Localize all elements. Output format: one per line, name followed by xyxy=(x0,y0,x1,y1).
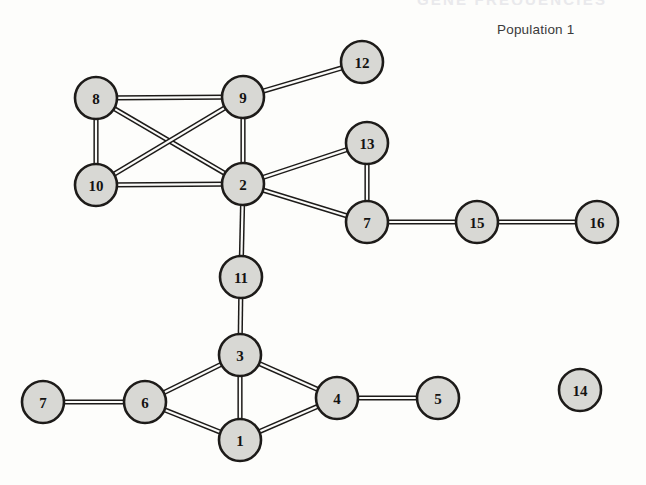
graph-node-2[interactable]: 2 xyxy=(222,163,264,205)
graph-node-7[interactable]: 7 xyxy=(22,381,64,423)
graph-edge xyxy=(260,67,344,92)
graph-edge xyxy=(114,97,225,98)
graph-node-13[interactable]: 13 xyxy=(346,122,388,164)
edge-fill xyxy=(161,363,224,394)
edge-fill xyxy=(162,409,224,434)
graph-edge xyxy=(256,362,320,390)
graph-edge xyxy=(240,295,241,337)
graph-edge xyxy=(241,202,242,259)
node-label: 7 xyxy=(39,395,47,411)
node-label: 3 xyxy=(236,348,244,364)
node-label: 11 xyxy=(234,270,248,286)
node-label: 5 xyxy=(434,391,442,407)
graph-node-6[interactable]: 6 xyxy=(124,381,166,423)
graph-node-15[interactable]: 15 xyxy=(456,201,498,243)
graph-node-5[interactable]: 5 xyxy=(417,377,459,419)
node-label: 9 xyxy=(239,90,247,106)
graph-node-14[interactable]: 14 xyxy=(559,369,601,411)
graph-edge xyxy=(260,189,350,216)
graph-edge xyxy=(260,149,350,179)
graph-node-11[interactable]: 11 xyxy=(220,256,262,298)
node-label: 7 xyxy=(363,215,371,231)
graph-node-8[interactable]: 8 xyxy=(75,77,117,119)
edge-fill xyxy=(260,67,344,92)
graph-canvas: 891210213715161131476451 xyxy=(0,0,646,485)
graph-node-1[interactable]: 1 xyxy=(219,419,261,461)
node-label: 16 xyxy=(590,215,606,231)
nodes-layer: 891210213715161131476451 xyxy=(22,41,618,461)
edge-fill xyxy=(260,149,350,179)
graph-node-12[interactable]: 12 xyxy=(341,41,383,83)
edge-fill xyxy=(240,295,241,337)
graph-edge xyxy=(162,409,224,434)
edge-fill xyxy=(241,202,242,259)
graph-node-10[interactable]: 10 xyxy=(75,164,117,206)
edge-fill xyxy=(257,405,321,433)
graph-node-3[interactable]: 3 xyxy=(219,334,261,376)
edge-fill xyxy=(256,362,320,390)
graph-edge xyxy=(114,184,225,185)
node-label: 6 xyxy=(141,395,149,411)
edges-layer xyxy=(61,67,579,433)
node-label: 14 xyxy=(573,383,589,399)
node-label: 2 xyxy=(239,177,247,193)
edge-fill xyxy=(114,184,225,185)
node-label: 8 xyxy=(92,91,100,107)
graph-edge xyxy=(257,405,321,433)
node-label: 4 xyxy=(333,391,341,407)
graph-node-16[interactable]: 16 xyxy=(576,201,618,243)
node-label: 10 xyxy=(89,178,104,194)
node-label: 15 xyxy=(470,215,485,231)
graph-node-7[interactable]: 7 xyxy=(346,201,388,243)
graph-edge xyxy=(161,363,224,394)
node-label: 12 xyxy=(355,55,370,71)
graph-figure: GENE FREQUENCIES Population 1 8912102137… xyxy=(0,0,646,485)
graph-node-4[interactable]: 4 xyxy=(316,377,358,419)
node-label: 13 xyxy=(360,136,375,152)
edge-fill xyxy=(260,189,350,216)
graph-node-9[interactable]: 9 xyxy=(222,76,264,118)
edge-fill xyxy=(114,97,225,98)
node-label: 1 xyxy=(236,433,244,449)
